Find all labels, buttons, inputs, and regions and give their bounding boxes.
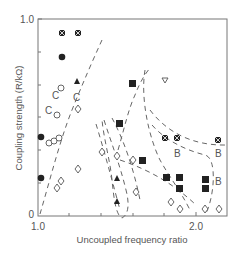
region-label-c: C [45,105,52,116]
markers [38,30,222,213]
region-label-b: B [215,176,222,187]
boundary-b-lower [152,125,213,215]
marker-asterisk-square [59,30,221,143]
region-label-c: C [73,92,80,103]
marker-open-triangle-down [162,78,168,83]
region-label-c: C [52,90,59,101]
x-axis-label: Uncoupled frequency ratio [77,234,188,245]
x-tick-label-min: 1.0 [31,221,45,232]
scatter-chart: 1.0 0 1.0 2.0 Uncoupled frequency ratio … [0,0,241,255]
region-label-b: B [174,148,181,159]
marker-open-diamond [54,105,222,213]
boundary-c-left [40,40,102,214]
y-tick-label-min: 0 [28,209,34,220]
plot-frame [38,19,227,216]
boundary-band-left [96,124,120,210]
y-tick-label-max: 1.0 [20,14,34,25]
x-tick-label-max: 2.0 [189,221,203,232]
marker-filled-circle [38,54,66,182]
region-label-b: B [215,148,222,159]
y-axis-ticks [38,19,42,183]
y-axis-label: Coupling strength (R/kΩ) [13,66,24,171]
x-axis-ticks [69,212,196,216]
boundary-lower [120,160,196,205]
